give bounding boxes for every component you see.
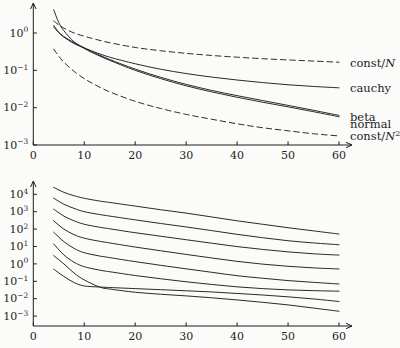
label-const-over-N: const/N	[350, 56, 396, 70]
top-convergence-axes	[31, 3, 352, 148]
y-tick-label: 100	[10, 256, 29, 270]
curve-normal	[54, 27, 339, 117]
label-cauchy: cauchy	[350, 81, 392, 95]
x-tick-label: 0	[30, 330, 37, 343]
curve-const-over-N	[54, 21, 339, 62]
y-tick-label: 100	[10, 25, 29, 39]
x-tick-label: 50	[281, 149, 295, 162]
y-tick-label: 103	[10, 204, 29, 218]
x-tick-label: 60	[332, 330, 346, 343]
curve-series-2	[54, 198, 339, 245]
curve-series-6	[54, 244, 339, 291]
y-tick-label: 10−1	[3, 63, 28, 77]
label-const-over-N-squared: const/N2	[350, 129, 400, 143]
figure-page: 10010−110−210−30102030405060const/Ncauch…	[0, 0, 400, 348]
curve-series-8	[54, 256, 339, 312]
y-tick-label: 10−2	[3, 100, 28, 114]
x-tick-label: 50	[281, 330, 295, 343]
curve-const-over-N-squared	[54, 49, 339, 136]
x-tick-label: 30	[179, 330, 193, 343]
x-tick-label: 30	[179, 149, 193, 162]
y-tick-label: 10−1	[3, 274, 28, 288]
x-tick-label: 60	[332, 149, 346, 162]
x-tick-label: 10	[77, 149, 91, 162]
x-tick-label: 40	[230, 149, 244, 162]
curve-beta	[54, 10, 339, 116]
top-convergence: 10010−110−210−30102030405060const/Ncauch…	[3, 3, 400, 162]
x-tick-label: 40	[230, 330, 244, 343]
y-tick-label: 101	[10, 239, 29, 253]
y-tick-label: 10−2	[3, 291, 28, 305]
bottom-family: 10410310210110010−110−210−30102030405060	[3, 181, 352, 343]
x-tick-label: 20	[128, 149, 142, 162]
convergence-figure: 10010−110−210−30102030405060const/Ncauch…	[0, 0, 400, 348]
curve-cauchy	[54, 25, 339, 87]
y-tick-label: 10−3	[3, 309, 28, 323]
x-tick-label: 10	[77, 330, 91, 343]
y-tick-label: 102	[10, 222, 29, 236]
curve-series-3	[54, 209, 339, 255]
x-tick-label: 20	[128, 330, 142, 343]
x-tick-label: 0	[30, 149, 37, 162]
y-tick-label: 10−3	[3, 137, 28, 151]
y-tick-label: 104	[10, 187, 29, 201]
curve-series-5	[54, 232, 339, 284]
